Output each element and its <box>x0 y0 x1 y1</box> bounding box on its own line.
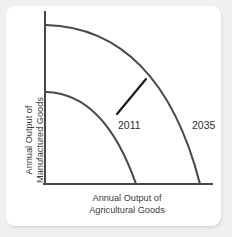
x-axis-title-line1: Annual Output of <box>93 193 162 203</box>
y-axis-title-line2: Manufactured Goods <box>35 97 45 183</box>
curve-label-2011: 2011 <box>118 119 141 131</box>
figure-root: 2011 2035 Annual Output of Manufactured … <box>0 0 232 237</box>
x-axis-title-line2: Agricultural Goods <box>89 205 165 215</box>
ppf-chart: 2011 2035 Annual Output of Manufactured … <box>0 0 232 237</box>
ppf-curve-2035 <box>46 25 200 184</box>
y-axis-title-line1: Annual Output of <box>24 105 34 174</box>
curve-label-2035: 2035 <box>192 119 216 131</box>
shift-arrow-icon <box>117 79 146 114</box>
